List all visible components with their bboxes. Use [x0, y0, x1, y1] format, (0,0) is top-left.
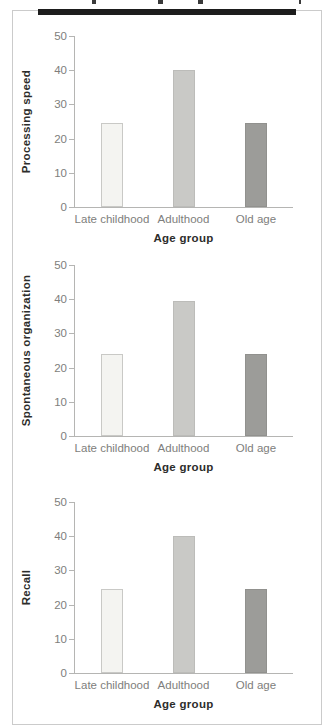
y-axis-tick: [69, 265, 74, 266]
bar-adulthood: [173, 70, 195, 207]
y-axis-title: Recall: [20, 478, 35, 698]
bar-late-childhood: [101, 589, 123, 673]
category-label: Old age: [206, 441, 306, 455]
bar-adulthood: [173, 536, 195, 673]
y-axis-tick-label: 40: [33, 63, 67, 77]
y-axis-tick: [69, 104, 74, 105]
cropped-text-fragment: [158, 0, 163, 4]
y-axis-tick-label: 20: [33, 361, 67, 375]
y-axis-tick-label: 20: [33, 132, 67, 146]
y-axis-tick-label: 10: [33, 395, 67, 409]
x-axis-line: [74, 207, 293, 208]
bar-adulthood: [173, 301, 195, 436]
y-axis-tick: [69, 207, 74, 208]
y-axis-title: Spontaneous organization: [20, 241, 35, 461]
y-axis-title: Processing speed: [20, 12, 35, 232]
cropped-text-fragment: [299, 0, 301, 4]
y-axis-line: [74, 265, 75, 437]
y-axis-tick-label: 50: [33, 258, 67, 272]
x-axis-title: Age group: [74, 232, 293, 244]
y-axis-tick: [69, 639, 74, 640]
y-axis-tick-label: 40: [33, 292, 67, 306]
y-axis-tick: [69, 36, 74, 37]
y-axis-tick-label: 30: [33, 326, 67, 340]
y-axis-tick: [69, 173, 74, 174]
category-label: Old age: [206, 678, 306, 692]
y-axis-tick: [69, 70, 74, 71]
y-axis-tick-label: 50: [33, 29, 67, 43]
y-axis-tick: [69, 299, 74, 300]
y-axis-line: [74, 36, 75, 208]
bar-chart-panel-spontaneous-organization: Spontaneous organization Age group 01020…: [0, 255, 331, 490]
y-axis-tick: [69, 333, 74, 334]
y-axis-tick: [69, 402, 74, 403]
y-axis-tick-label: 20: [33, 598, 67, 612]
x-axis-line: [74, 673, 293, 674]
y-axis-tick: [69, 673, 74, 674]
y-axis-tick: [69, 368, 74, 369]
y-axis-tick-label: 30: [33, 97, 67, 111]
bar-old-age: [245, 354, 267, 436]
y-axis-tick: [69, 502, 74, 503]
x-axis-line: [74, 436, 293, 437]
y-axis-tick: [69, 536, 74, 537]
x-axis-title: Age group: [74, 461, 293, 473]
y-axis-tick-label: 30: [33, 563, 67, 577]
top-rule-bar: [38, 9, 296, 15]
y-axis-line: [74, 502, 75, 674]
y-axis-tick-label: 10: [33, 166, 67, 180]
cropped-text-fragment: [92, 0, 96, 4]
y-axis-tick: [69, 436, 74, 437]
y-axis-tick: [69, 139, 74, 140]
bar-late-childhood: [101, 354, 123, 436]
category-label: Old age: [206, 212, 306, 226]
bar-chart-panel-processing-speed: Processing speed Age group 01020304050La…: [0, 26, 331, 261]
bar-chart-panel-recall: Recall Age group 01020304050Late childho…: [0, 492, 331, 726]
bar-old-age: [245, 123, 267, 207]
y-axis-tick: [69, 570, 74, 571]
y-axis-tick-label: 10: [33, 632, 67, 646]
y-axis-tick-label: 40: [33, 529, 67, 543]
y-axis-tick-label: 50: [33, 495, 67, 509]
y-axis-tick: [69, 605, 74, 606]
bar-late-childhood: [101, 123, 123, 207]
figure-container: Processing speed Age group 01020304050La…: [0, 0, 331, 726]
x-axis-title: Age group: [74, 698, 293, 710]
bar-old-age: [245, 589, 267, 673]
cropped-text-fragment: [198, 0, 203, 4]
